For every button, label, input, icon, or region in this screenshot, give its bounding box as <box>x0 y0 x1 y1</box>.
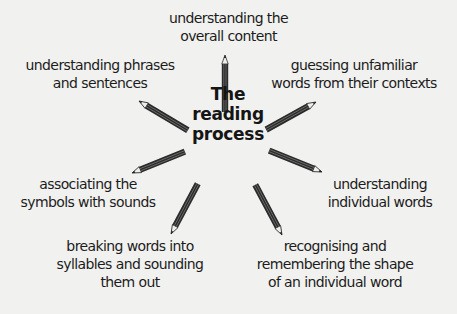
spoke-text: them out <box>50 273 210 291</box>
spoke-text: words from their contexts <box>268 74 440 92</box>
spoke-text: of an individual word <box>255 273 415 291</box>
spoke-text: breaking words into <box>50 237 210 255</box>
center-title-line: The <box>178 84 278 104</box>
center-title-line: process <box>178 124 278 144</box>
center-title-line: reading <box>178 104 278 124</box>
spoke-text: individual words <box>320 193 440 211</box>
spoke-text: syllables and sounding <box>50 255 210 273</box>
spoke-text: understanding phrases <box>20 56 180 74</box>
spoke-text: and sentences <box>20 74 180 92</box>
pencil-icon <box>268 148 323 175</box>
reading-process-diagram: The reading process understanding the ov… <box>0 0 457 314</box>
spoke-text: associating the <box>18 175 158 193</box>
spoke-label-upper-left: understanding phrases and sentences <box>20 56 180 92</box>
center-title: The reading process <box>178 84 278 144</box>
spoke-label-top: understanding the overall content <box>157 9 300 45</box>
spoke-text: recognising and <box>255 237 415 255</box>
spoke-text: guessing unfamiliar <box>268 56 440 74</box>
pencil-icon <box>168 182 200 235</box>
spoke-text: understanding the <box>157 9 300 27</box>
pencil-icon <box>252 183 284 236</box>
pencil-icon <box>131 149 186 176</box>
spoke-label-right: understanding individual words <box>320 175 440 211</box>
spoke-text: remembering the shape <box>255 255 415 273</box>
spoke-text: symbols with sounds <box>18 193 158 211</box>
spoke-text: understanding <box>320 175 440 193</box>
spoke-text: overall content <box>157 27 300 45</box>
spoke-label-lower-left: breaking words into syllables and soundi… <box>50 237 210 291</box>
spoke-label-lower-right: recognising and remembering the shape of… <box>255 237 415 291</box>
spoke-label-left: associating the symbols with sounds <box>18 175 158 211</box>
spoke-label-upper-right: guessing unfamiliar words from their con… <box>268 56 440 92</box>
